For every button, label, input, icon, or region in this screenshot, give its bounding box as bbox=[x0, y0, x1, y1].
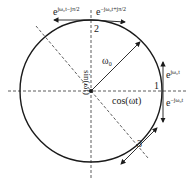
point-3-label: 3 bbox=[137, 138, 142, 149]
right-up-expr: ejω₀t bbox=[166, 69, 180, 80]
radius-arrow bbox=[91, 42, 140, 91]
point-2-label: 2 bbox=[94, 23, 99, 34]
right-down-expr: e−jω₀t bbox=[166, 97, 184, 108]
p3-up-arrow bbox=[140, 128, 157, 145]
sin-label: sin(ωt) bbox=[82, 70, 92, 95]
unit-circle-diagram: ω₀ sin(ωt) cos(ωt) 1 2 3 ejω₀t−jπ/2 e−jω… bbox=[0, 0, 191, 181]
top-left-expr: ejω₀t−jπ/2 bbox=[53, 6, 80, 17]
point-1-label: 1 bbox=[154, 80, 159, 91]
top-right-expr: e−jω₀t+jπ/2 bbox=[96, 6, 126, 17]
omega0-label: ω₀ bbox=[102, 55, 113, 66]
cos-label: cos(ωt) bbox=[112, 95, 141, 107]
